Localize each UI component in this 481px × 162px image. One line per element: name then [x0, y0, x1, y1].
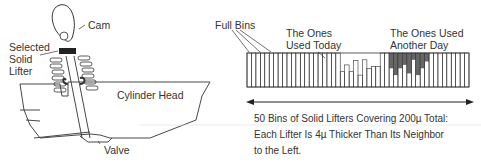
- bin: [318, 53, 322, 87]
- bin-used-today: [358, 75, 362, 87]
- lifter-label-line-2: Solid: [9, 53, 32, 65]
- used-today-label-line-1: The Ones: [286, 27, 332, 39]
- arrow-right-head: [466, 99, 474, 105]
- used-another-day-fill: [411, 53, 415, 60]
- range-arrow: [246, 99, 474, 105]
- bin: [314, 53, 318, 87]
- bin-used-today: [340, 72, 344, 87]
- bin: [291, 53, 295, 87]
- bin-used-today: [362, 60, 366, 87]
- bin: [287, 53, 291, 87]
- bin: [251, 53, 255, 87]
- bin: [465, 53, 469, 87]
- bin: [256, 53, 260, 87]
- bin-strip: [247, 53, 469, 87]
- used-another-day-fill: [402, 53, 406, 65]
- bin: [309, 53, 313, 87]
- used-another-day-fill: [398, 53, 402, 68]
- lifter-label-line-3: Lifter: [9, 65, 32, 77]
- arrow-left-head: [246, 99, 254, 105]
- bin: [438, 53, 442, 87]
- caption-line-3: to the Left.: [254, 145, 301, 157]
- bin-used-today: [371, 67, 375, 87]
- cam-label: Cam: [88, 19, 110, 31]
- bin: [442, 53, 446, 87]
- another-day-label-line-1: The Ones Used: [390, 27, 464, 39]
- bin: [331, 53, 335, 87]
- caption-line-2: Each Lifter Is 4µ Thicker Than Its Neigh…: [254, 129, 444, 141]
- bin: [305, 53, 309, 87]
- bin: [296, 53, 300, 87]
- bin: [274, 53, 278, 87]
- bin: [278, 53, 282, 87]
- bin-used-today: [349, 72, 353, 87]
- full-bins-label: Full Bins: [215, 19, 255, 31]
- cam-shaft: [60, 32, 68, 40]
- bin: [336, 53, 340, 87]
- bin: [433, 53, 437, 87]
- bin: [327, 53, 331, 87]
- used-another-day-fill: [420, 53, 424, 68]
- solid-lifter: [59, 48, 76, 54]
- bin: [447, 53, 451, 87]
- bin: [460, 53, 464, 87]
- bin: [456, 53, 460, 87]
- bin: [451, 53, 455, 87]
- bin-used-today: [376, 67, 380, 87]
- bin: [247, 53, 251, 87]
- used-another-day-fill: [425, 53, 429, 62]
- bin: [283, 53, 287, 87]
- lifter-label-line-1: Selected: [9, 41, 50, 53]
- valve-spring: [50, 56, 98, 92]
- used-today-label-line-2: Used Today: [286, 39, 341, 51]
- bin: [300, 53, 304, 87]
- bin: [385, 53, 389, 87]
- valve-label: Valve: [104, 144, 130, 156]
- used-another-day-fill: [389, 53, 393, 68]
- used-another-day-fill: [416, 53, 420, 75]
- bin: [269, 53, 273, 87]
- another-day-label-line-2: Another Day: [390, 39, 448, 51]
- bin-used-today: [367, 68, 371, 87]
- bin: [380, 53, 384, 87]
- bin-used-today: [345, 65, 349, 87]
- bin: [265, 53, 269, 87]
- used-another-day-fill: [394, 53, 398, 75]
- used-another-day-fill: [407, 53, 411, 73]
- caption-line-1: 50 Bins of Solid Lifters Covering 200µ T…: [254, 113, 448, 125]
- bin-used-today: [354, 60, 358, 87]
- bin: [260, 53, 264, 87]
- cylinder-head-label: Cylinder Head: [117, 89, 184, 101]
- bin: [429, 53, 433, 87]
